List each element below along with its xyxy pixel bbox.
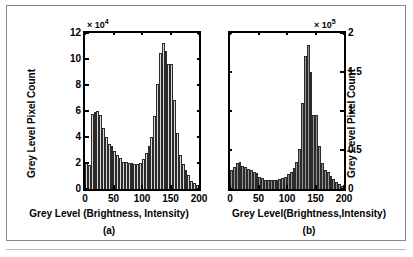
y-axis-tick bbox=[84, 84, 89, 86]
x-axis-tick-mirror bbox=[141, 32, 143, 35]
y-axis-tick-mirror bbox=[197, 110, 200, 112]
page-bottom-rule bbox=[6, 249, 406, 250]
y-axis-tick-label: 12 bbox=[70, 28, 81, 38]
x-axis-tick bbox=[141, 185, 143, 190]
y-axis-tick-label: 8 bbox=[75, 80, 81, 90]
x-axis-tick-label: 50 bbox=[108, 194, 119, 204]
x-axis-title-a: Grey Level (Brightness, Intensity) bbox=[7, 208, 211, 219]
x-axis-tick-mirror bbox=[343, 32, 345, 35]
y-axis-tick-label: 6 bbox=[75, 106, 81, 116]
x-axis-tick bbox=[84, 185, 86, 190]
x-axis-tick-mirror bbox=[286, 32, 288, 35]
x-axis-tick-label: 150 bbox=[162, 194, 179, 204]
y-exponent-b: × 105 bbox=[314, 17, 336, 30]
y-axis-tick-mirror bbox=[229, 110, 232, 112]
y-axis-tick-label: 10 bbox=[70, 54, 81, 64]
y-axis-tick-mirror bbox=[197, 162, 200, 164]
y-axis-tick-label: 0.5 bbox=[348, 145, 362, 155]
x-axis-tick bbox=[286, 185, 288, 190]
plot-area-a: 024681012050100150200 bbox=[83, 31, 201, 191]
y-axis-tick-mirror bbox=[197, 58, 200, 60]
panel-caption-a: (a) bbox=[7, 225, 211, 236]
y-axis-tick bbox=[340, 71, 345, 73]
histogram-bars-a bbox=[85, 33, 199, 189]
x-axis-tick-mirror bbox=[315, 32, 317, 35]
x-axis-tick bbox=[315, 185, 317, 190]
x-axis-tick-mirror bbox=[113, 32, 115, 35]
y-axis-tick-mirror bbox=[197, 136, 200, 138]
y-axis-tick-label: 2 bbox=[75, 158, 81, 168]
y-axis-tick-label: 1.5 bbox=[348, 67, 362, 77]
x-axis-tick-label: 0 bbox=[227, 194, 233, 204]
y-axis-tick-mirror bbox=[197, 84, 200, 86]
y-axis-tick bbox=[84, 110, 89, 112]
figure-root: × 104 Grey Level Pixel Count 02468101205… bbox=[0, 0, 413, 257]
y-axis-tick bbox=[340, 110, 345, 112]
x-axis-title-b: Grey Level(Brightness,Intensity) bbox=[211, 208, 407, 219]
x-axis-tick-label: 200 bbox=[191, 194, 208, 204]
y-axis-tick-label: 4 bbox=[75, 132, 81, 142]
y-axis-tick-mirror bbox=[229, 149, 232, 151]
x-axis-tick-label: 100 bbox=[279, 194, 296, 204]
panel-caption-b: (b) bbox=[211, 225, 407, 236]
y-axis-tick bbox=[340, 149, 345, 151]
x-axis-tick-label: 100 bbox=[134, 194, 151, 204]
plot-area-b: 00.511.52050100150200 bbox=[228, 31, 346, 191]
y-exponent-power-a: 4 bbox=[105, 18, 109, 25]
figure-frame: × 104 Grey Level Pixel Count 02468101205… bbox=[6, 5, 406, 241]
x-axis-tick-mirror bbox=[198, 32, 200, 35]
y-axis-tick bbox=[84, 162, 89, 164]
x-axis-tick bbox=[198, 185, 200, 190]
x-axis-tick-mirror bbox=[170, 32, 172, 35]
x-axis-tick bbox=[258, 185, 260, 190]
x-axis-tick-mirror bbox=[258, 32, 260, 35]
x-axis-tick bbox=[170, 185, 172, 190]
x-axis-tick-label: 200 bbox=[336, 194, 353, 204]
x-axis-tick-label: 50 bbox=[253, 194, 264, 204]
y-exponent-prefix-b: × 10 bbox=[314, 20, 332, 30]
x-axis-tick-label: 0 bbox=[82, 194, 88, 204]
y-axis-tick bbox=[84, 58, 89, 60]
y-exponent-a: × 104 bbox=[87, 17, 109, 30]
x-axis-tick-label: 150 bbox=[307, 194, 324, 204]
y-axis-tick-label: 2 bbox=[348, 28, 354, 38]
y-exponent-prefix-a: × 10 bbox=[87, 20, 105, 30]
y-axis-tick-label: 1 bbox=[348, 106, 354, 116]
x-axis-tick bbox=[343, 185, 345, 190]
chart-panel-a: × 104 Grey Level Pixel Count 02468101205… bbox=[7, 6, 211, 242]
histogram-bars-b bbox=[230, 33, 344, 189]
y-axis-title-a: Grey Level Pixel Count bbox=[26, 54, 37, 194]
x-axis-tick bbox=[229, 185, 231, 190]
y-axis-tick bbox=[84, 136, 89, 138]
x-axis-tick-mirror bbox=[229, 32, 231, 35]
y-axis-tick-label: 0 bbox=[75, 184, 81, 194]
chart-panel-b: × 105 Grey Level Pixel Count 00.511.5205… bbox=[211, 6, 407, 242]
x-axis-tick-mirror bbox=[84, 32, 86, 35]
x-axis-tick bbox=[113, 185, 115, 190]
y-axis-tick-mirror bbox=[229, 71, 232, 73]
y-exponent-power-b: 5 bbox=[332, 18, 336, 25]
